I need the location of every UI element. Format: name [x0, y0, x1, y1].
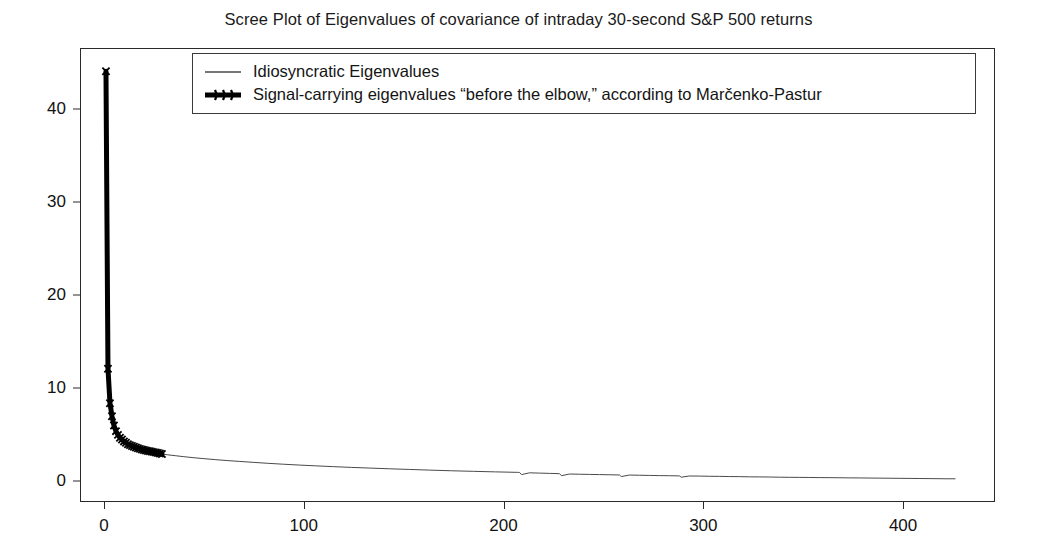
- plot-canvas: [80, 48, 995, 502]
- x-tick-label: 100: [264, 516, 344, 536]
- x-tick-label: 300: [663, 516, 743, 536]
- legend-label-idiosyncratic: Idiosyncratic Eigenvalues: [253, 63, 439, 80]
- x-tick-label: 400: [863, 516, 943, 536]
- y-tick-label: 40: [20, 99, 66, 119]
- legend-swatch-thin-line-icon: [203, 64, 243, 80]
- y-tick-label: 10: [20, 378, 66, 398]
- x-tick-mark: [504, 502, 505, 509]
- y-tick-mark: [73, 388, 80, 389]
- y-tick-mark: [73, 295, 80, 296]
- x-tick-mark: [104, 502, 105, 509]
- scree-plot-figure: Scree Plot of Eigenvalues of covariance …: [0, 0, 1037, 556]
- x-tick-label: 0: [64, 516, 144, 536]
- legend-label-signal: Signal-carrying eigenvalues “before the …: [253, 86, 822, 103]
- legend-item-idiosyncratic[interactable]: Idiosyncratic Eigenvalues: [203, 60, 965, 83]
- y-tick-mark: [73, 481, 80, 482]
- legend-item-signal[interactable]: Signal-carrying eigenvalues “before the …: [203, 83, 965, 106]
- series-line-idiosyncratic: [162, 454, 955, 479]
- series-layer: [102, 68, 955, 479]
- y-tick-label: 0: [20, 471, 66, 491]
- x-tick-mark: [703, 502, 704, 509]
- x-tick-label: 200: [464, 516, 544, 536]
- page-title: Scree Plot of Eigenvalues of covariance …: [0, 10, 1037, 29]
- y-tick-label: 30: [20, 192, 66, 212]
- series-line-signal: [106, 71, 162, 454]
- y-tick-mark: [73, 201, 80, 202]
- x-tick-mark: [304, 502, 305, 509]
- y-tick-label: 20: [20, 285, 66, 305]
- x-tick-mark: [903, 502, 904, 509]
- y-tick-mark: [73, 108, 80, 109]
- chart-legend[interactable]: Idiosyncratic Eigenvalues Signal-carryin…: [192, 53, 976, 114]
- legend-swatch-thick-line-icon: [203, 87, 243, 103]
